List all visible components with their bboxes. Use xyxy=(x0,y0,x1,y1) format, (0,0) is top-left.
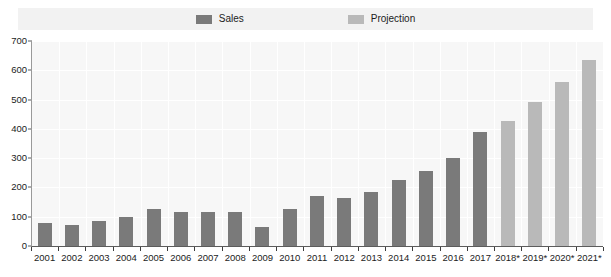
x-tick-mark xyxy=(222,247,223,251)
x-tick-label: 2005 xyxy=(140,253,167,269)
x-tick-label: 2010 xyxy=(276,253,303,269)
x-tick-label: 2013 xyxy=(358,253,385,269)
x-tick-mark xyxy=(494,247,495,251)
bar-sales-2016[interactable] xyxy=(446,158,460,246)
y-axis-labels: 7006005004003002001000 xyxy=(0,41,27,247)
bar-sales-2017[interactable] xyxy=(473,132,487,246)
bar-sales-2007[interactable] xyxy=(201,212,215,246)
x-tick-slot xyxy=(385,247,412,251)
x-tick-slot xyxy=(85,247,112,251)
legend-entry-sales[interactable]: Sales xyxy=(196,14,244,24)
bar-sales-2003[interactable] xyxy=(92,221,106,246)
x-tick-mark xyxy=(358,247,359,251)
x-tick-mark xyxy=(467,247,468,251)
x-tick-label: 2014 xyxy=(385,253,412,269)
bar-group xyxy=(358,41,385,246)
y-tick-label: 300 xyxy=(11,153,27,163)
y-tick-label: 700 xyxy=(11,36,27,46)
x-tick-label: 2011 xyxy=(303,253,330,269)
bar-group xyxy=(412,41,439,246)
bar-projection-2018p[interactable] xyxy=(501,121,515,246)
bar-sales-2001[interactable] xyxy=(38,223,52,246)
legend-entry-projection[interactable]: Projection xyxy=(348,14,415,24)
x-tick-label: 2008 xyxy=(222,253,249,269)
bar-sales-2002[interactable] xyxy=(65,225,79,246)
x-tick-slot xyxy=(358,247,385,251)
x-tick-slot xyxy=(249,247,276,251)
x-tick-label: 2007 xyxy=(194,253,221,269)
x-tick-mark xyxy=(331,247,332,251)
x-tick-mark xyxy=(58,247,59,251)
bar-group xyxy=(521,41,548,246)
bar-sales-2006[interactable] xyxy=(174,212,188,246)
x-tick-label: 2017 xyxy=(467,253,494,269)
x-tick-mark xyxy=(167,247,168,251)
x-tick-mark xyxy=(276,247,277,251)
legend-label: Projection xyxy=(371,14,415,24)
x-tick-mark xyxy=(113,247,114,251)
x-tick-slot xyxy=(194,247,221,251)
bars-layer xyxy=(31,41,603,246)
y-tick-label: 100 xyxy=(11,212,27,222)
x-tick-label: 2020* xyxy=(548,253,575,269)
bar-projection-2019p[interactable] xyxy=(528,102,542,246)
bar-sales-2011[interactable] xyxy=(310,196,324,246)
x-tick-label: 2015 xyxy=(412,253,439,269)
bar-sales-2014[interactable] xyxy=(392,180,406,246)
bar-group xyxy=(385,41,412,246)
bar-group xyxy=(548,41,575,246)
bar-group xyxy=(440,41,467,246)
bar-group xyxy=(494,41,521,246)
x-tick-mark xyxy=(303,247,304,251)
bar-chart: SalesProjection 7006005004003002001000 2… xyxy=(0,0,611,277)
x-tick-slot xyxy=(303,247,330,251)
x-tick-mark xyxy=(521,247,522,251)
x-tick-mark xyxy=(548,247,549,251)
bar-group xyxy=(140,41,167,246)
bar-sales-2012[interactable] xyxy=(337,198,351,246)
x-tick-slot xyxy=(331,247,358,251)
x-tick-mark xyxy=(31,247,32,251)
bar-sales-2008[interactable] xyxy=(228,212,242,246)
x-tick-label: 2019* xyxy=(521,253,548,269)
bar-sales-2009[interactable] xyxy=(255,227,269,246)
x-axis-labels: 2001200220032004200520062007200820092010… xyxy=(31,253,603,269)
bar-group xyxy=(249,41,276,246)
bar-projection-2021p[interactable] xyxy=(582,60,596,246)
x-tick-slot xyxy=(140,247,167,251)
x-tick-mark xyxy=(576,247,577,251)
bar-group xyxy=(85,41,112,246)
bar-group xyxy=(113,41,140,246)
x-tick-slot xyxy=(440,247,467,251)
x-tick-label: 2009 xyxy=(249,253,276,269)
bar-projection-2020p[interactable] xyxy=(555,82,569,246)
bar-group xyxy=(58,41,85,246)
x-tick-mark xyxy=(194,247,195,251)
x-tick-slot xyxy=(276,247,303,251)
legend-label: Sales xyxy=(219,14,244,24)
y-tick-label: 0 xyxy=(22,241,27,251)
bar-group xyxy=(167,41,194,246)
bar-group xyxy=(331,41,358,246)
bar-sales-2013[interactable] xyxy=(364,192,378,246)
bar-group xyxy=(303,41,330,246)
x-tick-mark xyxy=(603,247,604,251)
x-tick-slot xyxy=(467,247,494,251)
bar-sales-2004[interactable] xyxy=(119,217,133,246)
bar-group xyxy=(467,41,494,246)
bar-sales-2015[interactable] xyxy=(419,171,433,246)
legend-swatch-icon xyxy=(348,15,364,24)
bar-group xyxy=(194,41,221,246)
x-tick-mark xyxy=(140,247,141,251)
x-tick-slot xyxy=(412,247,439,251)
chart-legend: SalesProjection xyxy=(18,8,593,30)
x-tick-label: 2021* xyxy=(576,253,603,269)
x-tick-label: 2001 xyxy=(31,253,58,269)
bar-sales-2010[interactable] xyxy=(283,209,297,246)
x-tick-slot xyxy=(576,247,603,251)
x-tick-mark xyxy=(412,247,413,251)
x-tick-label: 2004 xyxy=(113,253,140,269)
x-tick-label: 2002 xyxy=(58,253,85,269)
x-tick-label: 2006 xyxy=(167,253,194,269)
bar-sales-2005[interactable] xyxy=(147,209,161,246)
